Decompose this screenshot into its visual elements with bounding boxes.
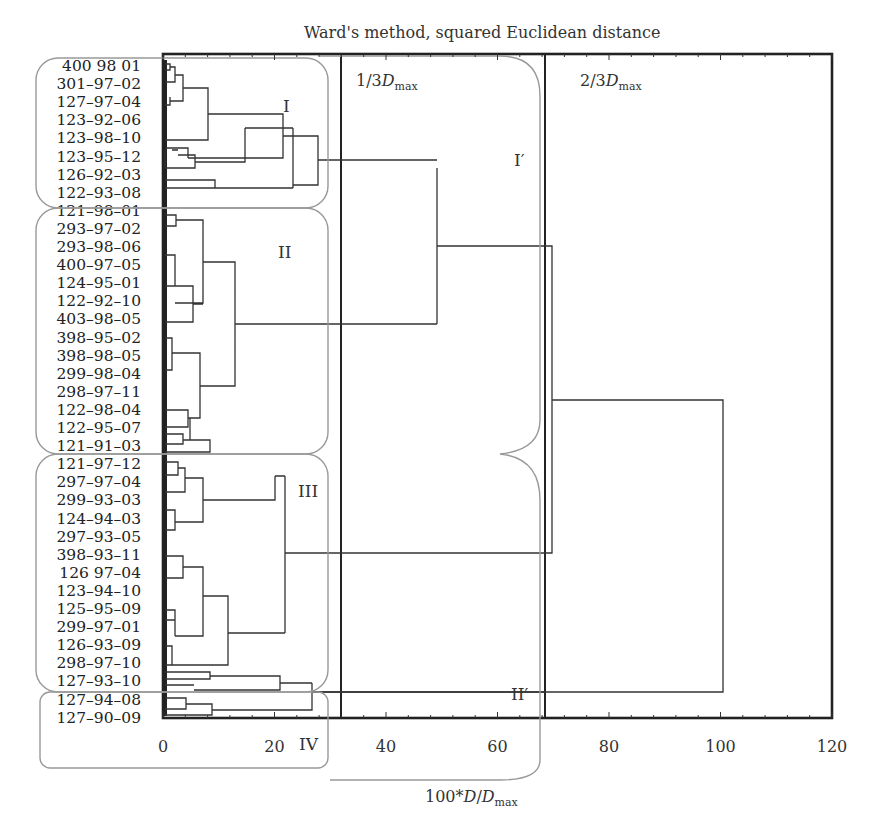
dendrogram-chart: Ward's method, squared Euclidean distanc… <box>0 0 881 829</box>
leaf-label: 127–93–10 <box>56 672 141 690</box>
leaf-label: 127–94–08 <box>56 691 141 709</box>
leaf-label: 297–93–05 <box>56 528 141 546</box>
leaf-label: 297–97–04 <box>56 473 141 491</box>
leaf-label: 126–93–09 <box>56 636 141 654</box>
leaf-label: 400 98 01 <box>62 57 141 75</box>
x-tick-label: 120 <box>817 737 848 756</box>
dendrogram-branches <box>165 60 723 716</box>
cluster-label-III: III <box>298 481 318 501</box>
x-tick-label: 80 <box>599 737 619 756</box>
leaf-label: 299–98–04 <box>56 365 141 383</box>
x-tick-label: 0 <box>158 737 168 756</box>
leaf-label: 121–97–12 <box>56 455 141 473</box>
super-cluster-label-II-prime: II′ <box>511 684 528 704</box>
x-tick-label: 40 <box>376 737 396 756</box>
x-tick-label: 20 <box>264 737 284 756</box>
leaf-label: 398–98–05 <box>56 347 141 365</box>
leaf-label: 122–95–07 <box>56 419 141 437</box>
leaf-label: 123–92–06 <box>56 111 141 129</box>
leaf-label: 121–91–03 <box>56 437 141 455</box>
x-tick-label: 100 <box>705 737 736 756</box>
cluster-label-I: I <box>283 96 290 116</box>
leaf-label: 400–97–05 <box>56 256 141 274</box>
leaf-label: 299–93–03 <box>56 491 141 509</box>
leaf-label: 403–98–05 <box>56 310 141 328</box>
leaf-label: 123–95–12 <box>56 148 141 166</box>
leaf-label: 122–92–10 <box>56 292 141 310</box>
leaf-label: 301–97–02 <box>56 75 141 93</box>
leaf-label: 125–95–09 <box>56 600 141 618</box>
x-axis-ticks: 020406080100120 <box>158 54 847 756</box>
chart-title: Ward's method, squared Euclidean distanc… <box>304 23 660 42</box>
leaf-label: 293–97–02 <box>56 220 141 238</box>
leaf-label: 123–98–10 <box>56 129 141 147</box>
cluster-label-IV: IV <box>299 734 319 754</box>
leaf-label: 293–98–06 <box>56 238 141 256</box>
leaf-label: 298–97–11 <box>56 383 141 401</box>
super-cluster-label-I-prime: I′ <box>514 150 525 170</box>
x-tick-label: 60 <box>487 737 507 756</box>
leaf-label: 299–97–01 <box>56 618 141 636</box>
leaf-label: 126 97–04 <box>59 564 141 582</box>
super-cluster-outline <box>320 56 540 780</box>
leaf-label: 127–97–04 <box>56 93 141 111</box>
leaf-label: 124–94–03 <box>56 510 141 528</box>
threshold-label-two-thirds: 2/3Dmax <box>580 71 643 93</box>
leaf-label: 123–94–10 <box>56 582 141 600</box>
leaf-label: 126–92–03 <box>56 166 141 184</box>
leaf-label: 124–95–01 <box>56 274 141 292</box>
leaf-label: 122–93–08 <box>56 184 141 202</box>
cluster-label-II: II <box>278 242 291 262</box>
leaf-label: 122–98–04 <box>56 401 141 419</box>
plot-frame <box>163 54 832 718</box>
leaf-label: 298–97–10 <box>56 654 141 672</box>
threshold-label-one-third: 1/3Dmax <box>356 71 419 93</box>
leaf-labels: 400 98 01301–97–02127–97–04123–92–06123–… <box>56 57 141 727</box>
x-axis-label: 100*D/Dmax <box>425 787 519 809</box>
leaf-label: 398–93–11 <box>56 546 141 564</box>
leaf-label: 121–98–01 <box>56 202 141 220</box>
leaf-label: 398–95–02 <box>56 329 141 347</box>
leaf-label: 127–90–09 <box>56 709 141 727</box>
